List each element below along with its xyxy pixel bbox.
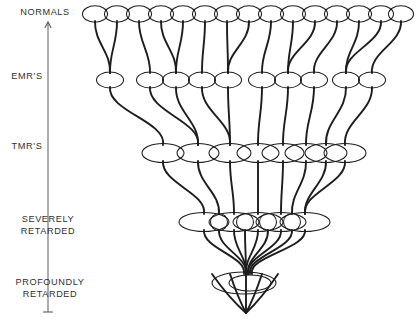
lineage-link — [150, 87, 198, 145]
lineage-link — [176, 21, 183, 73]
inner-node-tier-severely-retarded — [237, 214, 254, 231]
node-tier-normals — [105, 6, 130, 22]
lineage-link — [258, 87, 262, 145]
lineage-link — [202, 87, 230, 145]
axis-label-line: PROFOUNDLY — [15, 277, 84, 287]
inner-node-tier-severely-retarded — [211, 214, 228, 231]
axis-label-profoundly-retarded: PROFOUNDLYRETARDED — [15, 277, 84, 299]
lineage-link — [110, 21, 117, 73]
node-tier-normals — [149, 6, 174, 22]
node-tier-emrs — [333, 72, 360, 88]
lineage-link — [95, 21, 110, 73]
tier-nodes — [83, 6, 414, 294]
lineage-link — [204, 230, 244, 274]
axis-label-emrs: EMR'S — [11, 71, 42, 81]
node-tier-tmrs — [285, 144, 327, 163]
node-tier-normals — [347, 6, 372, 22]
node-tier-tmrs — [177, 144, 219, 163]
inner-node-tier-severely-retarded — [284, 214, 301, 231]
node-tier-emrs — [249, 72, 276, 88]
node-tier-normals — [303, 6, 328, 22]
lineage-link — [372, 21, 401, 73]
axis-label-line: RETARDED — [21, 226, 76, 236]
lineage-link — [346, 21, 381, 73]
lineage-link — [283, 87, 288, 145]
node-tier-emrs — [137, 72, 164, 88]
node-tier-normals — [171, 6, 196, 22]
lineage-link — [326, 87, 346, 145]
hierarchy-funnel-diagram: NORMALSEMR'STMR'SSEVERELYRETARDEDPROFOUN… — [0, 0, 417, 319]
node-tier-normals — [193, 6, 218, 22]
node-tier-emrs — [97, 72, 124, 88]
lineage-link — [252, 230, 305, 274]
axis-label-line: RETARDED — [23, 289, 78, 299]
node-tier-normals — [127, 6, 152, 22]
node-tier-severely-retarded — [209, 213, 259, 232]
node-tier-tmrs — [305, 144, 347, 163]
node-tier-normals — [281, 6, 306, 22]
lineage-link — [198, 161, 219, 214]
lineage-link — [176, 87, 198, 145]
node-tier-emrs — [301, 72, 328, 88]
lineage-link — [262, 21, 271, 73]
node-tier-normals — [389, 6, 414, 22]
axis-label-line: TMR'S — [12, 141, 43, 151]
lineage-link — [292, 161, 306, 214]
node-tier-tmrs — [142, 144, 184, 163]
lineage-link — [228, 21, 249, 73]
node-tier-emrs — [215, 72, 242, 88]
inner-node-tier-severely-retarded — [260, 214, 277, 231]
node-tier-severely-retarded — [179, 213, 229, 232]
node-tier-normals — [369, 6, 394, 22]
lineage-link — [230, 161, 234, 214]
node-tier-emrs — [275, 72, 302, 88]
node-tier-normals — [259, 6, 284, 22]
node-tier-tmrs — [237, 144, 279, 163]
node-tier-tmrs — [262, 144, 304, 163]
lineage-link — [139, 21, 150, 73]
node-tier-profoundly-retarded — [229, 275, 271, 291]
node-tier-emrs — [189, 72, 216, 88]
node-tier-normals — [325, 6, 350, 22]
axis-label-line: EMR'S — [11, 71, 42, 81]
lineage-link — [110, 87, 163, 145]
lineage-link — [281, 161, 283, 214]
lineage-link — [314, 21, 337, 73]
lineage-link — [161, 21, 176, 73]
node-tier-normals — [215, 6, 240, 22]
node-tier-emrs — [359, 72, 386, 88]
lineage-link — [345, 87, 372, 145]
axis-label-tmrs: TMR'S — [12, 141, 43, 151]
severity-axis — [43, 22, 53, 312]
node-tier-tmrs — [324, 144, 366, 163]
node-tier-normals — [237, 6, 262, 22]
node-tier-normals — [83, 6, 108, 22]
lineage-links — [95, 21, 401, 313]
lineage-link — [202, 21, 205, 73]
axis-label-line: NORMALS — [20, 7, 70, 17]
lineage-link — [250, 230, 292, 274]
axis-label-line: SEVERELY — [22, 214, 75, 224]
node-tier-emrs — [163, 72, 190, 88]
diagram-canvas: NORMALSEMR'STMR'SSEVERELYRETARDEDPROFOUN… — [0, 0, 417, 319]
lineage-link — [305, 161, 326, 214]
axis-label-normals: NORMALS — [20, 7, 70, 17]
node-tier-tmrs — [209, 144, 251, 163]
lineage-link — [306, 87, 314, 145]
